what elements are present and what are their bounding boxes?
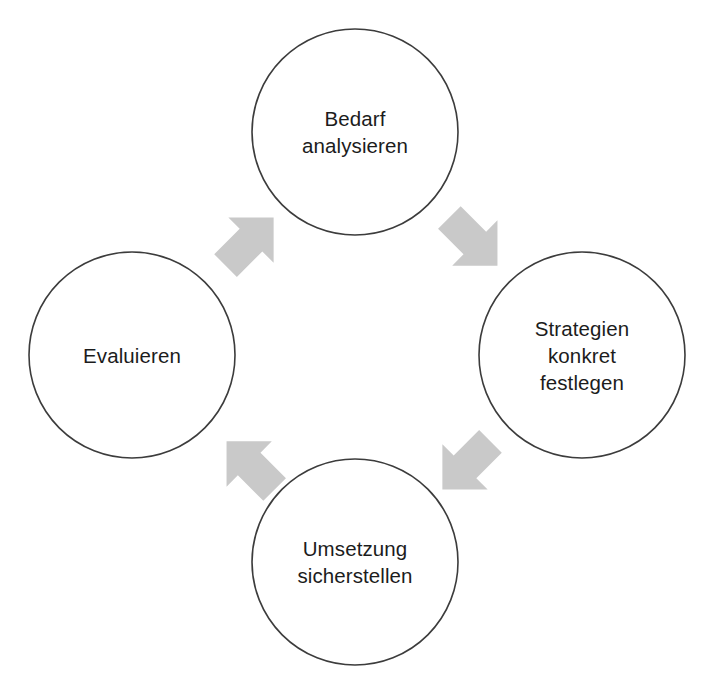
cycle-diagram: Bedarfanalysieren Strategienkonkretfestl…: [0, 0, 714, 689]
arrow-evaluieren-to-bedarf: [203, 195, 296, 288]
node-circle-umsetzung-sicherstellen[interactable]: [252, 459, 458, 665]
node-circle-evaluieren[interactable]: [29, 252, 235, 458]
arrow-bedarf-to-strategien: [427, 195, 520, 288]
node-circle-strategien-konkret-festlegen[interactable]: [479, 252, 685, 458]
cycle-diagram-canvas: [0, 0, 714, 689]
cycle-node-group: [29, 29, 685, 665]
node-circle-bedarf-analysieren[interactable]: [252, 29, 458, 235]
